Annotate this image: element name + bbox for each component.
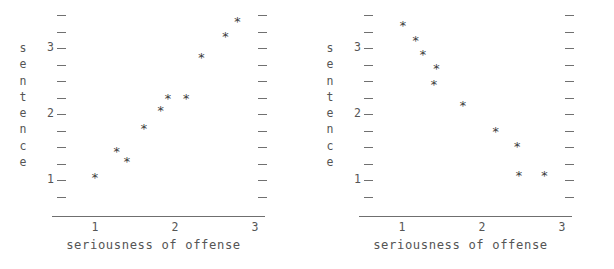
figure-root: sentence 123 123 seriousness of offense … [0,0,614,269]
y-axis-title-char: e [16,105,30,121]
data-point-marker [491,126,500,137]
y-axis-title-char: e [323,154,337,170]
plot-area-left [55,10,260,217]
data-point-marker [163,93,172,104]
y-axis-title-char: n [16,73,30,89]
data-point-marker [156,105,165,116]
scatter-panel-positive: sentence 123 123 seriousness of offense [0,0,307,269]
y-axis-title-char: n [16,121,30,137]
y-axis-tick-label: 1 [343,174,361,186]
x-axis-title-left: seriousness of offense [0,238,307,252]
y-axis-title-char: e [16,56,30,72]
x-axis-title-right: seriousness of offense [307,238,614,252]
scatter-panel-negative: sentence 123 123 seriousness of offense [307,0,614,269]
data-point-marker [221,31,230,42]
y-axis-title-char: c [16,138,30,154]
data-point-marker [540,170,549,181]
y-axis-tick-label: 1 [36,174,54,186]
y-axis-tick-label: 3 [343,42,361,54]
y-axis-title-char: e [323,105,337,121]
y-axis-title-char: t [323,89,337,105]
data-point-marker [139,123,148,134]
data-point-marker [430,79,439,90]
data-point-marker [432,63,441,74]
y-axis-title-char: n [323,73,337,89]
data-point-marker [398,20,407,31]
data-point-marker [513,141,522,152]
x-axis-tick-label: 3 [245,221,265,233]
data-point-marker [514,170,523,181]
y-axis-title-right: sentence [323,40,337,170]
data-point-marker [112,146,121,157]
y-axis-title-char: c [323,138,337,154]
y-axis-tick-label: 2 [36,108,54,120]
y-axis-tick-label: 3 [36,42,54,54]
x-axis-tick-label: 2 [472,221,492,233]
y-axis-title-char: s [16,40,30,56]
y-axis-title-char: t [16,89,30,105]
x-axis-tick-label: 2 [165,221,185,233]
data-point-marker [182,93,191,104]
y-axis-title-left: sentence [16,40,30,170]
plot-area-right [362,10,567,217]
y-axis-title-char: e [323,56,337,72]
data-point-marker [233,16,242,27]
y-axis-title-char: e [16,154,30,170]
data-point-marker [411,35,420,46]
data-point-marker [458,100,467,111]
data-point-marker [91,172,100,183]
data-point-marker [418,49,427,60]
x-axis-tick-label: 3 [552,221,572,233]
x-axis-tick-label: 1 [85,221,105,233]
data-point-marker [123,156,132,167]
y-axis-title-char: n [323,121,337,137]
x-axis-tick-label: 1 [392,221,412,233]
data-point-marker [197,52,206,63]
y-axis-title-char: s [323,40,337,56]
y-axis-tick-label: 2 [343,108,361,120]
